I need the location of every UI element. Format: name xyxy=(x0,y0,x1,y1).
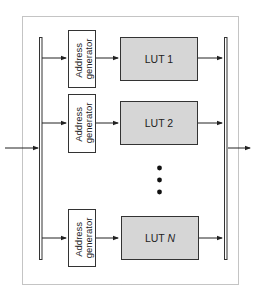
channel-row-2: Address generator LUT 2 xyxy=(42,95,222,153)
ellipsis-dots xyxy=(157,166,162,195)
address-generator-label-line2: generator xyxy=(83,103,94,144)
lut-label-index: 1 xyxy=(167,53,173,65)
channel-row-1: Address generator LUT 1 xyxy=(42,31,222,88)
address-generator-label-line2: generator xyxy=(83,39,94,80)
svg-text:LUT N: LUT N xyxy=(145,232,176,244)
lut-label-index: 2 xyxy=(167,117,173,129)
input-bus xyxy=(40,38,43,260)
svg-text:Address generator: Address generator xyxy=(73,103,94,144)
svg-text:LUT 2: LUT 2 xyxy=(145,117,174,129)
svg-text:Address generator: Address generator xyxy=(73,39,94,80)
lut-diagram: Address generator LUT 1 Address generato… xyxy=(0,0,258,296)
address-generator-label-line2: generator xyxy=(83,218,94,259)
lut-label-index: N xyxy=(167,232,175,244)
channel-row-n: Address generator LUT N xyxy=(42,210,222,267)
output-bus xyxy=(225,38,228,260)
lut-label-prefix: LUT xyxy=(145,117,168,129)
lut-label-prefix: LUT xyxy=(145,53,168,65)
svg-text:Address generator: Address generator xyxy=(73,218,94,259)
svg-text:LUT 1: LUT 1 xyxy=(145,53,174,65)
lut-label-prefix: LUT xyxy=(145,232,168,244)
